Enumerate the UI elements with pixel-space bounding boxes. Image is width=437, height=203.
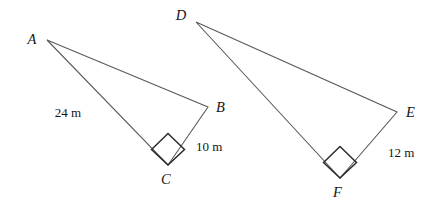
triangle-def: D E F 12 m — [175, 7, 415, 200]
triangle-abc: A B C 24 m 10 m — [27, 31, 225, 187]
side-length-ef: 12 m — [388, 145, 414, 160]
right-angle-marker-f — [324, 147, 357, 179]
vertex-label-b: B — [216, 99, 225, 115]
diagram-canvas: A B C 24 m 10 m D E F 12 m — [0, 0, 437, 203]
triangle-abc-outline — [47, 40, 208, 165]
right-angle-marker-c — [152, 134, 185, 166]
vertex-label-d: D — [175, 7, 187, 23]
triangle-def-outline — [196, 22, 397, 178]
side-length-ac: 24 m — [55, 105, 81, 120]
vertex-label-e: E — [405, 104, 415, 120]
geometry-figure: A B C 24 m 10 m D E F 12 m — [0, 0, 437, 203]
vertex-label-f: F — [332, 184, 342, 200]
side-length-bc: 10 m — [196, 139, 222, 154]
vertex-label-c: C — [161, 171, 171, 187]
vertex-label-a: A — [27, 31, 37, 47]
